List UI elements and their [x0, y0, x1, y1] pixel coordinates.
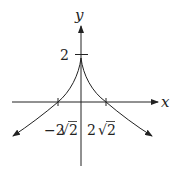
x-axis-label: x — [161, 93, 170, 111]
y-axis-label: y — [74, 6, 84, 24]
x-tick-label-neg-root: 2 — [69, 122, 78, 138]
x-tick-label-pos-coef: 2 — [87, 122, 96, 138]
graph: y x 2 −2 √ 2 2 √ 2 — [0, 0, 180, 179]
sqrt-icon: √ — [98, 122, 107, 138]
sqrt-icon: √ — [60, 122, 69, 138]
x-tick-label-pos-root: 2 — [107, 122, 116, 138]
y-tick-label-2: 2 — [60, 47, 69, 63]
